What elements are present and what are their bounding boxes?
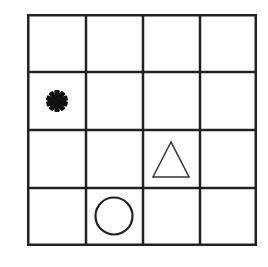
triangle-icon bbox=[153, 142, 189, 177]
circle-icon bbox=[96, 198, 133, 235]
grid-diagram bbox=[27, 14, 257, 246]
grid-lines bbox=[27, 14, 257, 246]
asterisk-icon bbox=[46, 90, 69, 112]
